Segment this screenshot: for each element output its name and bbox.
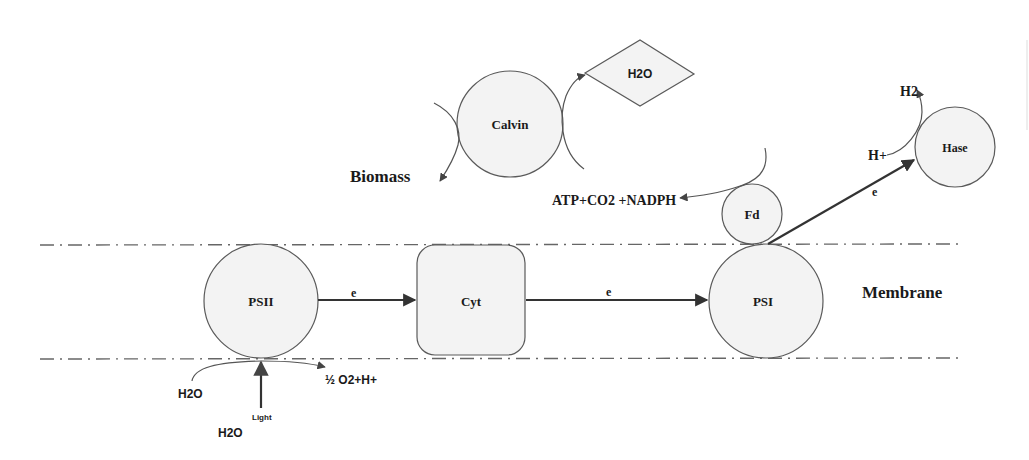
membrane-label: Membrane bbox=[862, 283, 943, 302]
h2o-bottom-label: H2O bbox=[218, 426, 243, 440]
h2-label: H2 bbox=[900, 84, 918, 99]
edge-fd-hase: e bbox=[768, 160, 914, 244]
water-splitting-arc: H2O ½ O2+H+ bbox=[178, 361, 377, 401]
h-plus-label: H+ bbox=[868, 148, 887, 163]
node-cyt: Cyt bbox=[417, 245, 525, 355]
node-hase: Hase bbox=[915, 107, 995, 187]
node-psii: PSII bbox=[204, 244, 318, 358]
node-h2o-diamond: H2O bbox=[585, 40, 694, 106]
calvin-biomass-arc: Biomass bbox=[350, 103, 459, 186]
membrane-bottom-line bbox=[40, 358, 958, 359]
calvin-label: Calvin bbox=[492, 117, 530, 132]
calvin-h2o-arc bbox=[562, 75, 585, 169]
light-arrow: Light H2O bbox=[218, 362, 272, 440]
fd-label: Fd bbox=[744, 207, 760, 222]
node-fd: Fd bbox=[722, 184, 782, 244]
photosynthesis-diagram: Membrane PSII Cyt PSI Fd Hase Calvin H2O… bbox=[0, 0, 1029, 460]
h2o-left-label: H2O bbox=[178, 387, 203, 401]
o2-h-label: ½ O2+H+ bbox=[325, 373, 377, 387]
cyt-label: Cyt bbox=[461, 294, 482, 309]
light-label: Light bbox=[252, 413, 272, 422]
edge-cyt-psi: e bbox=[526, 285, 707, 300]
biomass-label: Biomass bbox=[350, 167, 411, 186]
node-calvin: Calvin bbox=[457, 71, 563, 177]
edge-fd-hase-label: e bbox=[872, 185, 878, 199]
edge-psii-cyt: e bbox=[318, 286, 415, 300]
node-psi: PSI bbox=[709, 244, 823, 358]
edge-cyt-psi-label: e bbox=[606, 285, 612, 299]
edge-psii-cyt-label: e bbox=[351, 286, 357, 300]
atp-co2-nadph-label: ATP+CO2 +NADPH bbox=[552, 193, 676, 208]
h2o-diamond-label: H2O bbox=[628, 67, 653, 81]
hase-label: Hase bbox=[942, 141, 968, 155]
psii-label: PSII bbox=[248, 294, 273, 309]
psi-label: PSI bbox=[753, 294, 773, 309]
hase-h-arc: H+ H2 bbox=[868, 84, 922, 163]
